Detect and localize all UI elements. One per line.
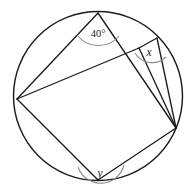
angle-label-40: 40°: [91, 28, 106, 39]
chord-left-to-quad-top-right: [17, 48, 139, 99]
angle-label-y: y: [96, 167, 103, 180]
chord-bottom-to-right: [98, 128, 176, 180]
chord-quad-top-right-to-right: [139, 48, 176, 128]
chord-top-to-left: [17, 13, 98, 99]
geometry-canvas: 40° x y: [0, 0, 192, 191]
geometry-figure: 40° x y: [0, 0, 192, 191]
chord-left-to-bottom: [17, 99, 98, 180]
angle-label-x: x: [145, 46, 152, 58]
